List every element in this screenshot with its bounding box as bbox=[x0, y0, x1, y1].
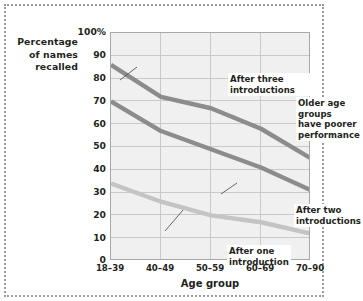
x-axis-tick-label: 70–90 bbox=[296, 263, 324, 273]
x-axis-tick-labels: 18–3940–4950–5960–6970–90 bbox=[110, 263, 310, 277]
annotation-after-two-introductions: After two introductions bbox=[294, 204, 363, 227]
x-axis-tick-label: 60–69 bbox=[246, 263, 274, 273]
y-axis-tick-label: 100% bbox=[66, 27, 106, 36]
series-line bbox=[111, 183, 310, 233]
x-axis-tick-label: 18–39 bbox=[96, 263, 124, 273]
plot-area-wrapper: After three introductions Older age grou… bbox=[110, 32, 310, 260]
y-axis-tick-label: 20 bbox=[66, 210, 106, 219]
y-axis-tick-label: 80 bbox=[66, 73, 106, 82]
y-axis-tick-label: 10 bbox=[66, 233, 106, 242]
plot-area bbox=[110, 32, 310, 260]
y-axis-tick-label: 90 bbox=[66, 50, 106, 59]
y-axis-tick-label: 50 bbox=[66, 141, 106, 150]
y-axis-tick-label: 30 bbox=[66, 187, 106, 196]
leader-line-after-one bbox=[165, 210, 183, 231]
annotation-older-age-groups: Older age groups have poorer performance bbox=[296, 97, 362, 141]
y-axis-tick-label: 70 bbox=[66, 96, 106, 105]
y-axis-tick-label: 60 bbox=[66, 119, 106, 128]
annotation-after-three-introductions: After three introductions bbox=[228, 73, 310, 96]
x-axis-tick-label: 50–59 bbox=[196, 263, 224, 273]
y-axis-tick-label: 40 bbox=[66, 164, 106, 173]
leader-line-after-two bbox=[221, 183, 237, 194]
x-axis-tick-label: 40–49 bbox=[146, 263, 174, 273]
series-layer bbox=[111, 33, 310, 260]
x-axis-title: Age group bbox=[110, 278, 310, 289]
y-axis-tick-labels: 0102030405060708090100% bbox=[64, 32, 106, 260]
series-line bbox=[111, 101, 310, 190]
